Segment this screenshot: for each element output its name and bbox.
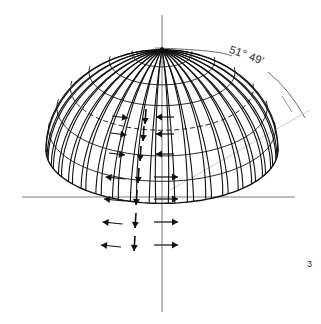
arrow-head-icon — [172, 242, 178, 249]
arrow-head-icon — [142, 118, 149, 124]
meridian-rib — [162, 50, 243, 189]
arrow-head-icon — [140, 135, 147, 141]
inclined-axis-tick — [282, 96, 292, 112]
arrow-head-icon — [132, 222, 139, 228]
arrow-head-icon — [103, 219, 109, 226]
arrow-head-icon — [172, 219, 178, 226]
apex-point — [160, 48, 164, 52]
arrow-head-icon — [101, 242, 107, 249]
meridian-rib — [81, 50, 162, 189]
figure-number: 3 — [307, 259, 312, 269]
arrow-head-icon — [172, 174, 178, 181]
angle-arc-continued — [268, 72, 305, 118]
dome-diagram — [0, 0, 321, 324]
arrow-head-icon — [156, 151, 162, 158]
arrow-head-icon — [131, 245, 138, 251]
meridian-rib — [155, 50, 162, 204]
arrow-head-icon — [156, 131, 162, 138]
meridian-rib — [162, 50, 252, 184]
